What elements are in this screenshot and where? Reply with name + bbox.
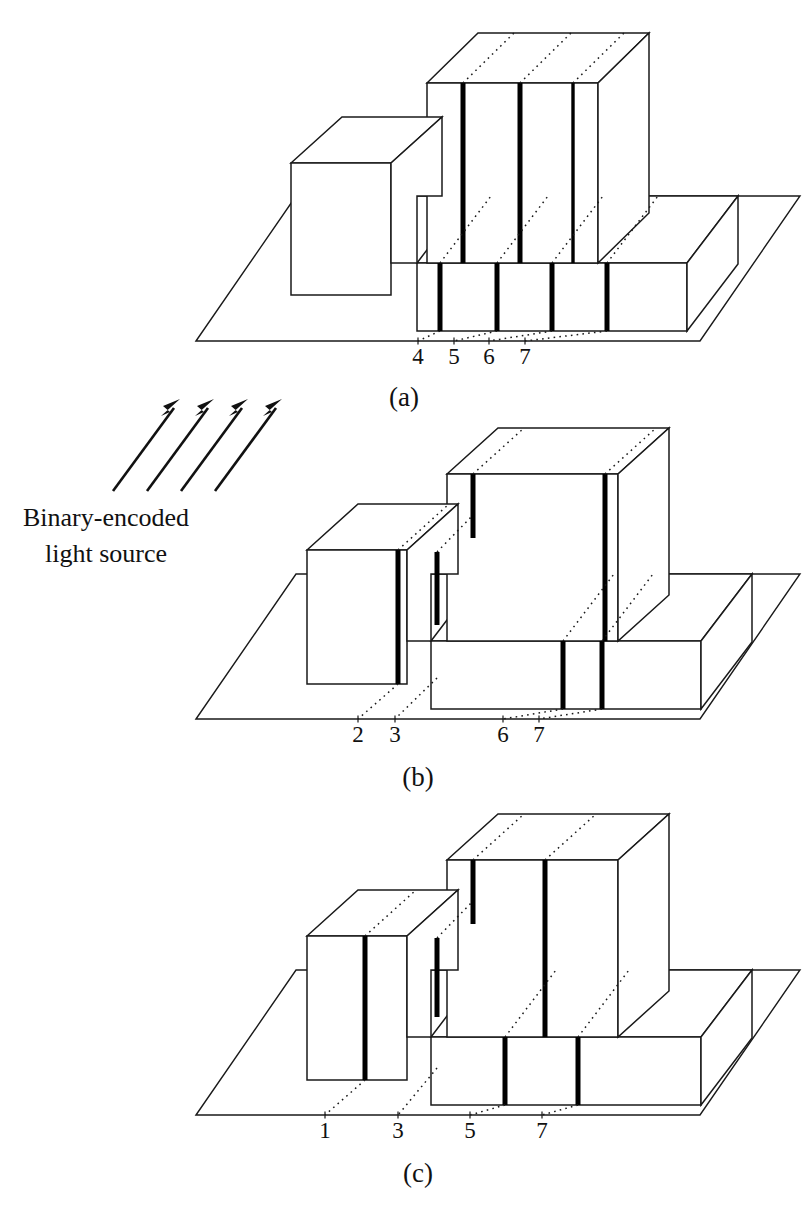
panel-c: 1 3 5 7 (c) [196,814,800,1188]
light-ray-1 [113,408,174,491]
tick-label-a-0: 4 [412,344,424,369]
light-ray-4 [215,408,276,491]
tick-label-c-0: 1 [319,1118,331,1143]
panel-caption-b: (b) [402,762,433,792]
tick-label-c-1: 3 [392,1118,404,1143]
figure-canvas: 4 5 6 7 (a) Binary-encoded light source [0,0,805,1228]
figure-root: 4 5 6 7 (a) Binary-encoded light source [0,0,805,1228]
tick-label-b-2: 6 [497,722,509,747]
tick-label-b-0: 2 [352,722,364,747]
light-ray-2 [147,408,208,491]
light-source-annotation: Binary-encoded light source [23,399,282,568]
panel-caption-c: (c) [403,1158,433,1188]
tick-label-c-2: 5 [464,1118,476,1143]
panel-caption-a: (a) [389,382,419,412]
low-block-front-b [431,641,701,709]
tick-label-a-3: 7 [519,344,531,369]
light-source-label-line2: light source [45,539,167,568]
tick-label-c-3: 7 [536,1118,548,1143]
panel-a: 4 5 6 7 (a) [196,33,800,412]
light-ray-3 [181,408,242,491]
left-cube-front-b [307,550,407,684]
panel-b: 2 3 6 7 (b) [196,428,800,792]
tick-label-a-2: 6 [483,344,495,369]
light-source-label-line1: Binary-encoded [23,503,189,532]
tick-label-b-3: 7 [533,722,545,747]
left-cube-front-c [307,936,407,1080]
tick-label-b-1: 3 [389,722,401,747]
tick-label-a-1: 5 [448,344,460,369]
low-block-front-c [431,1037,701,1105]
left-cube-front-a [291,163,391,295]
